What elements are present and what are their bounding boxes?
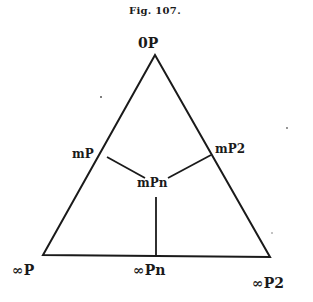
speck (286, 127, 288, 129)
line-mP2-to-center (168, 155, 211, 178)
line-mP-to-center (107, 157, 145, 178)
label-bottom-middle: ∞Pn (133, 263, 165, 277)
figure-caption: Fig. 107. (129, 6, 181, 16)
label-top-vertex: 0P (138, 36, 158, 50)
label-bottom-right: ∞P2 (252, 276, 284, 290)
label-center: mPn (137, 177, 167, 189)
crystal-form-diagram: Fig. 107. 0P mP mP2 mPn ∞P ∞Pn ∞P2 (0, 0, 313, 302)
label-left-edge: mP (72, 148, 94, 160)
speck (271, 232, 273, 234)
speck (100, 96, 102, 98)
label-bottom-left: ∞P (12, 263, 34, 277)
label-right-edge: mP2 (215, 143, 245, 155)
